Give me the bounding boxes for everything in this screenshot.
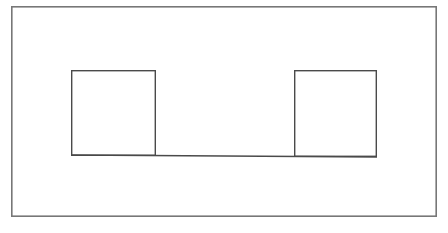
diagram-background <box>0 0 448 233</box>
diagram-canvas <box>0 0 448 233</box>
line-diagram <box>0 0 448 233</box>
